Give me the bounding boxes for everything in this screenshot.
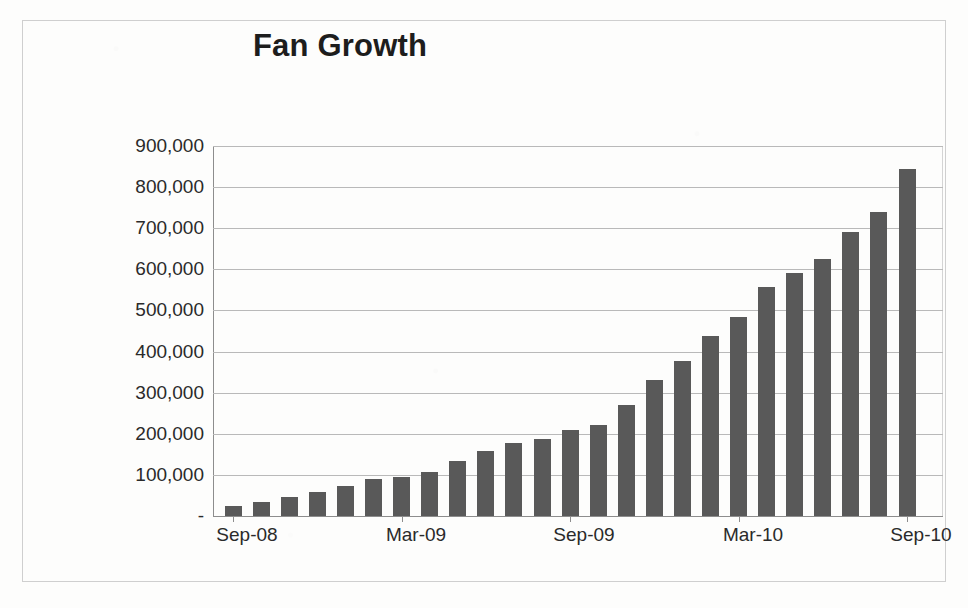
- bar: [842, 232, 859, 516]
- y-axis-tick-label: 400,000: [84, 342, 204, 361]
- y-axis-tick-label: 700,000: [84, 218, 204, 237]
- y-axis-tick-label: 600,000: [84, 259, 204, 278]
- bar: [449, 461, 466, 516]
- x-axis-tick: [570, 516, 571, 522]
- x-axis-tick-label: Mar-10: [723, 524, 783, 546]
- bar: [365, 479, 382, 516]
- y-axis-tick-label: 800,000: [84, 177, 204, 196]
- bars-group: [213, 146, 943, 516]
- bar: [590, 425, 607, 516]
- bar: [758, 287, 775, 516]
- x-axis-tick-label: Mar-09: [386, 524, 446, 546]
- bar: [674, 361, 691, 516]
- bar: [534, 439, 551, 516]
- x-axis-tick: [907, 516, 908, 522]
- bar: [870, 212, 887, 516]
- y-axis-tick-label: 300,000: [84, 383, 204, 402]
- bar: [899, 169, 916, 516]
- bar: [309, 492, 326, 516]
- scanned-page: Fan Growth 900,000800,000700,000600,0005…: [0, 0, 968, 608]
- x-axis-tick-label: Sep-10: [890, 524, 951, 546]
- y-axis-tick-label: 500,000: [84, 300, 204, 319]
- bar: [337, 486, 354, 516]
- bar: [421, 472, 438, 516]
- y-axis-tick-label: -: [84, 506, 204, 525]
- x-axis-tick: [233, 516, 234, 522]
- x-axis-tick-label: Sep-09: [553, 524, 614, 546]
- x-axis-tick: [402, 516, 403, 522]
- y-axis-tick-label: 200,000: [84, 424, 204, 443]
- x-axis-tick: [739, 516, 740, 522]
- x-axis-line: [213, 516, 943, 517]
- bar: [786, 273, 803, 516]
- bar: [646, 380, 663, 516]
- x-axis-tick-label: Sep-08: [216, 524, 277, 546]
- bar: [730, 317, 747, 516]
- bar: [253, 502, 270, 516]
- bar: [225, 506, 242, 516]
- bar: [562, 430, 579, 516]
- bar: [814, 259, 831, 516]
- bar: [393, 477, 410, 516]
- y-axis-labels: 900,000800,000700,000600,000500,000400,0…: [78, 0, 204, 560]
- bar: [618, 405, 635, 516]
- y-axis-tick-label: 900,000: [84, 136, 204, 155]
- bar: [281, 497, 298, 516]
- y-axis-tick-label: 100,000: [84, 465, 204, 484]
- bar: [702, 336, 719, 516]
- bar: [477, 451, 494, 516]
- bar: [505, 443, 522, 516]
